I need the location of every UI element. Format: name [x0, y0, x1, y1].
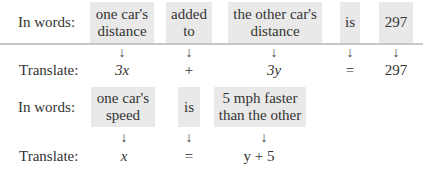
phrase-text: one car's — [97, 90, 149, 107]
down-arrow-icon: ↓ — [114, 131, 134, 145]
phrase-text: speed — [97, 107, 149, 124]
down-arrow-icon: ↓ — [386, 46, 406, 60]
down-arrow-icon: ↓ — [112, 46, 132, 60]
translation-297: 297 — [379, 62, 413, 79]
down-arrow-icon: ↓ — [264, 46, 284, 60]
phrase-text: distance — [96, 23, 148, 40]
translation-plus: + — [179, 62, 199, 79]
phrase-box-other-cars-distance: the other car'sdistance — [228, 2, 322, 43]
phrase-box-297: 297 — [379, 2, 413, 43]
translation-x: x — [114, 148, 134, 165]
phrase-box-is: is — [340, 2, 360, 43]
translation-3y: 3y — [254, 62, 294, 79]
down-arrow-icon: ↓ — [254, 131, 274, 145]
phrase-text: is — [345, 14, 355, 31]
translation-y-plus-5: y + 5 — [234, 148, 284, 165]
divider-line — [0, 43, 423, 45]
phrase-text: the other car's — [233, 6, 317, 23]
translation-3x: 3x — [102, 62, 142, 79]
down-arrow-icon: ↓ — [179, 131, 199, 145]
in-words-label-2: In words: — [18, 99, 75, 116]
translate-label-2: Translate: — [19, 148, 78, 165]
translate-label-1: Translate: — [19, 62, 78, 79]
phrase-text: than the other — [219, 107, 301, 124]
translation-equals-2: = — [179, 148, 199, 165]
down-arrow-icon: ↓ — [340, 46, 360, 60]
translation-equals: = — [340, 62, 360, 79]
phrase-box-one-cars-speed: one car'sspeed — [91, 87, 155, 127]
phrase-text: 297 — [385, 14, 408, 31]
down-arrow-icon: ↓ — [179, 46, 199, 60]
phrase-box-is-2: is — [178, 87, 200, 127]
phrase-box-one-cars-distance: one car'sdistance — [90, 2, 154, 43]
phrase-text: one car's — [96, 6, 148, 23]
phrase-text: distance — [233, 23, 317, 40]
phrase-text: is — [184, 99, 194, 116]
phrase-box-5-mph-faster: 5 mph fasterthan the other — [214, 87, 306, 127]
in-words-label-1: In words: — [18, 14, 75, 31]
phrase-text: 5 mph faster — [219, 90, 301, 107]
phrase-box-added-to: addedto — [166, 2, 212, 43]
phrase-text: to — [171, 23, 207, 40]
phrase-text: added — [171, 6, 207, 23]
